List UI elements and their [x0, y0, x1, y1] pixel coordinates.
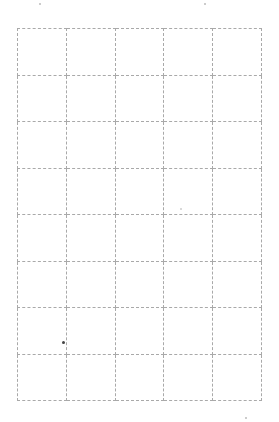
- grid-row: [18, 75, 262, 122]
- scan-speck: [39, 3, 41, 5]
- grid-cell: [115, 261, 164, 308]
- grid-cell: [115, 168, 164, 215]
- grid-cell: [164, 168, 213, 215]
- grid-cell: [164, 308, 213, 355]
- grid-cell: [66, 215, 115, 262]
- scan-speck: [204, 3, 206, 5]
- grid-cell: [213, 261, 262, 308]
- grid-cell: [18, 354, 67, 401]
- grid-row: [18, 29, 262, 76]
- grid-cell: [115, 215, 164, 262]
- grid-cell: [213, 308, 262, 355]
- grid-cell: [213, 215, 262, 262]
- grid-cell: [115, 75, 164, 122]
- grid-cell: [115, 122, 164, 169]
- grid-cell: [66, 75, 115, 122]
- grid-cell: [66, 308, 115, 355]
- scan-speck: [245, 417, 247, 419]
- grid-cell: [66, 261, 115, 308]
- grid-cell: [115, 308, 164, 355]
- grid-cell: [18, 168, 67, 215]
- cut-off-heading-fragment: [24, 0, 254, 3]
- grid-cell: [18, 75, 67, 122]
- grid-cell: [213, 75, 262, 122]
- grid-cell: [164, 75, 213, 122]
- grid-cell: [115, 29, 164, 76]
- grid-row: [18, 122, 262, 169]
- grid-cell: [213, 168, 262, 215]
- grid-cell: [18, 215, 67, 262]
- grid-cell: [18, 261, 67, 308]
- grid-cell: [66, 168, 115, 215]
- grid-cell: [164, 29, 213, 76]
- grid-cell: [164, 122, 213, 169]
- grid-cell: [213, 354, 262, 401]
- grid-cell: [213, 122, 262, 169]
- grid-table: [17, 28, 262, 401]
- grid-cell: [164, 261, 213, 308]
- grid-cell: [18, 122, 67, 169]
- grid-cell: [115, 354, 164, 401]
- grid-cell: [18, 308, 67, 355]
- grid-body: [18, 29, 262, 401]
- grid-cell: [213, 29, 262, 76]
- grid-cell: [66, 354, 115, 401]
- grid-row: [18, 261, 262, 308]
- grid-cell: [164, 215, 213, 262]
- scan-speck: [62, 341, 65, 344]
- grid-cell: [66, 29, 115, 76]
- scan-speck: [180, 208, 182, 210]
- grid-row: [18, 308, 262, 355]
- grid-cell: [164, 354, 213, 401]
- grid-row: [18, 354, 262, 401]
- grid-cell: [18, 29, 67, 76]
- grid-cell: [66, 122, 115, 169]
- grid-row: [18, 215, 262, 262]
- grid-row: [18, 168, 262, 215]
